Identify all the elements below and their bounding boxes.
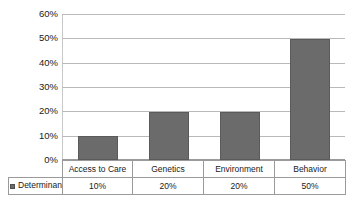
y-axis-tick-labels: 60% 50% 40% 30% 20% 10% 0% — [0, 14, 58, 160]
plot-area — [62, 14, 345, 160]
table-value-behavior: 50% — [275, 178, 346, 195]
table-header-behavior: Behavior — [275, 161, 346, 178]
bar-access-to-care — [78, 136, 118, 160]
y-axis-tick-label: 20% — [4, 107, 58, 117]
data-table: Access to Care Genetics Environment Beha… — [8, 160, 346, 195]
table-value-access-to-care: 10% — [63, 178, 133, 195]
legend-swatch-icon — [10, 184, 15, 189]
bar-behavior — [290, 39, 330, 160]
y-axis-tick-label: 30% — [4, 82, 58, 92]
table-row-categories: Access to Care Genetics Environment Beha… — [9, 161, 346, 178]
bar-genetics — [149, 112, 189, 160]
bar-chart: 60% 50% 40% 30% 20% 10% 0% — [0, 0, 360, 201]
table-value-genetics: 20% — [133, 178, 204, 195]
y-axis-tick-label: 50% — [4, 34, 58, 44]
y-axis-tick-label: 40% — [4, 58, 58, 68]
legend-entry-determinants: Determinants — [9, 178, 63, 195]
table-row: Determinants 10% 20% 20% 50% — [9, 178, 346, 195]
y-axis-tick-label: 10% — [4, 131, 58, 141]
bar-series-determinants — [62, 14, 345, 160]
table-header-genetics: Genetics — [133, 161, 204, 178]
table-value-environment: 20% — [204, 178, 275, 195]
table-corner-cell — [9, 161, 63, 178]
bar-environment — [220, 112, 260, 160]
table-header-environment: Environment — [204, 161, 275, 178]
y-axis-tick-label: 60% — [4, 9, 58, 19]
plot-region: 60% 50% 40% 30% 20% 10% 0% — [0, 0, 360, 162]
table-header-access-to-care: Access to Care — [63, 161, 133, 178]
legend-label: Determinants — [18, 181, 63, 191]
